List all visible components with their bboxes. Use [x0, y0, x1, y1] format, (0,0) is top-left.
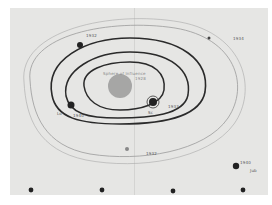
body-upper-right-dot — [208, 37, 211, 40]
label-top-left: 1932 — [86, 33, 97, 38]
label-center-right: 1933 — [168, 104, 179, 109]
label-upper-right: 1934 — [233, 36, 244, 41]
faint-orbit-1 — [24, 19, 245, 164]
bottom-dot-3 — [171, 189, 176, 194]
bottom-dot-4 — [241, 188, 246, 193]
body-top-left-dot — [77, 42, 83, 48]
label-left-prefix: Lo — [57, 111, 62, 116]
body-center-right-dot — [149, 98, 157, 106]
orbit-diagram — [0, 0, 272, 205]
body-lower-right-dot — [233, 163, 239, 169]
label-center-right-sub: Sc — [148, 110, 153, 115]
label-bottom: 1932 — [146, 151, 157, 156]
central-sphere — [108, 74, 132, 98]
label-left: 1940 — [73, 113, 84, 118]
bottom-dot-2 — [100, 188, 105, 193]
label-lower-right-sub: Jub — [250, 168, 257, 173]
body-bottom-dot — [125, 147, 129, 151]
label-lower-right: 1940 — [240, 160, 251, 165]
faint-orbit-2 — [30, 25, 238, 156]
center-sublabel: 1928 — [135, 76, 146, 81]
body-left-dot — [68, 102, 75, 109]
bottom-dot-1 — [29, 188, 34, 193]
